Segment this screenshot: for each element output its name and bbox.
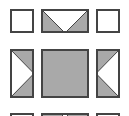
tile-goose-left (96, 49, 120, 98)
tile-goose-down (41, 9, 89, 33)
tile-solid-square (41, 49, 89, 98)
tile-goose-right (10, 49, 34, 98)
tile-plain-square (10, 9, 34, 33)
tile-plain-square (96, 113, 120, 116)
tile-plain-square (10, 113, 34, 116)
tile-plain-square (96, 9, 120, 33)
tile-goose-up (41, 113, 89, 116)
